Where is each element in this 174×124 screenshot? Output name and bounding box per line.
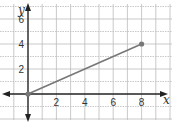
y-axis-arrow-up-icon bbox=[25, 3, 31, 11]
x-axis-label: x bbox=[163, 93, 170, 107]
y-tick-label: 4 bbox=[18, 39, 24, 50]
x-tick-label: 8 bbox=[139, 97, 145, 108]
data-point bbox=[25, 91, 30, 96]
x-tick-label: 4 bbox=[82, 97, 88, 108]
data-point bbox=[139, 41, 144, 46]
x-axis-arrow-left-icon bbox=[2, 91, 10, 97]
x-tick-label: 2 bbox=[54, 97, 60, 108]
y-axis-label: y bbox=[17, 3, 25, 17]
y-tick-label: 2 bbox=[18, 64, 24, 75]
x-tick-label: 6 bbox=[110, 97, 116, 108]
coordinate-plane: 2468246 x y bbox=[0, 0, 174, 124]
y-axis-arrow-down-icon bbox=[25, 114, 31, 122]
